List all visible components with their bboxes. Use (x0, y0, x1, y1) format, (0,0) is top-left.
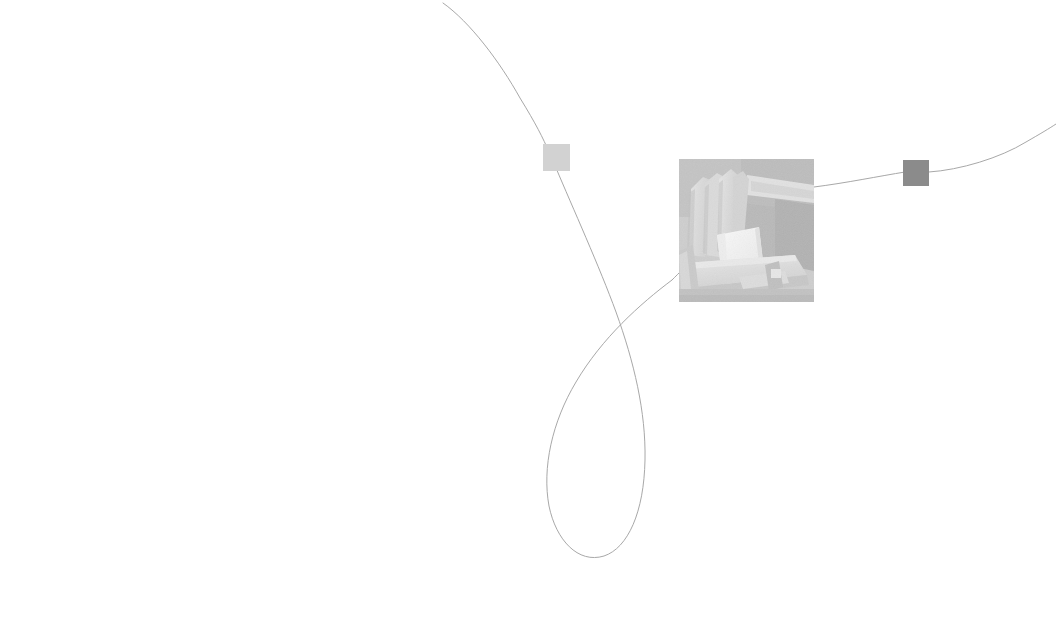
edge-layer (0, 0, 1056, 619)
node-image-thumbnail[interactable] (679, 159, 814, 302)
edge-thumb-to-node-b (814, 172, 905, 187)
node-square-light[interactable] (543, 144, 570, 171)
node-square-dark[interactable] (903, 160, 929, 186)
edge-outgoing-right (929, 124, 1056, 172)
edge-incoming-top (443, 3, 549, 152)
edge-node-a-to-loop (547, 168, 672, 558)
thumbnail-artwork (679, 159, 814, 302)
graph-canvas[interactable]: Node Graph Canvas (0, 0, 1056, 619)
